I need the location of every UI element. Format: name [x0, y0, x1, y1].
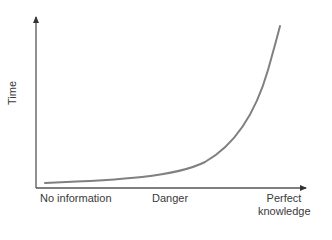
x-label-perfect-knowledge: Perfect knowledge [258, 192, 310, 218]
x-label-perfect: Perfect [258, 192, 310, 205]
x-label-danger: Danger [152, 192, 188, 205]
x-label-knowledge: knowledge [258, 205, 310, 218]
y-axis-label: Time [6, 81, 18, 105]
exponential-curve [45, 26, 280, 183]
x-label-no-information: No information [40, 192, 112, 205]
